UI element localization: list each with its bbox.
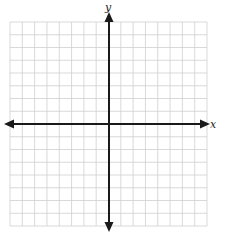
y-axis-label: y [104, 1, 112, 14]
coordinate-plane: x y [0, 0, 226, 236]
x-axis-right-arrow-icon [200, 120, 210, 129]
x-axis-left-arrow-icon [4, 120, 14, 129]
x-axis-label: x [210, 118, 217, 131]
y-axis-bottom-arrow-icon [105, 222, 114, 232]
